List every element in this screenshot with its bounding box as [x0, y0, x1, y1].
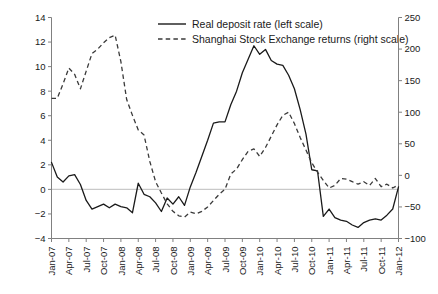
x-axis-tick-label: Apr-10 — [272, 247, 283, 276]
left-axis-tick-label: 8 — [40, 86, 45, 97]
right-axis-tick-label: 150 — [405, 75, 421, 86]
left-axis-tick-label: 4 — [40, 135, 45, 146]
right-axis-tick-label: 0 — [405, 170, 410, 181]
x-axis-tick-label: Jul-07 — [81, 247, 92, 273]
left-axis-tick-label: 2 — [40, 159, 45, 170]
legend-label-real-deposit-rate: Real deposit rate (left scale) — [192, 18, 323, 30]
right-axis-tick-label: 200 — [405, 43, 421, 54]
x-axis-tick-labels: Jan-07Apr-07Jul-07Oct-07Jan-08Apr-08Jul-… — [46, 247, 404, 276]
x-axis-tick-label: Apr-08 — [133, 247, 144, 276]
x-axis-tick-label: Apr-07 — [63, 247, 74, 276]
x-axis-tick-label: Oct-11 — [376, 247, 387, 275]
series-line-real-deposit-rate — [52, 46, 399, 228]
left-axis-tick-label: −2 — [35, 208, 46, 219]
x-axis-tick-label: Jan-08 — [116, 247, 127, 276]
x-axis-tick-label: Apr-11 — [341, 247, 352, 275]
x-axis-tick-label: Jul-11 — [358, 247, 369, 272]
x-axis-tick-label: Jul-08 — [150, 247, 161, 273]
line-chart: Real deposit rate (left scale) Shanghai … — [0, 0, 438, 294]
left-axis-tick-label: 6 — [40, 110, 45, 121]
chart-series-group — [52, 35, 399, 227]
x-axis-tick-label: Oct-10 — [306, 247, 317, 276]
x-axis-tick-label: Oct-07 — [98, 247, 109, 276]
x-axis-tick-label: Jan-12 — [393, 247, 404, 276]
right-axis: −100−50050100150200250 — [399, 12, 426, 244]
legend-label-sse-returns: Shanghai Stock Exchange returns (right s… — [192, 33, 409, 45]
right-axis-tick-label: 250 — [405, 12, 421, 23]
bottom-axis — [52, 239, 399, 243]
x-axis-tick-label: Jan-10 — [254, 247, 265, 276]
left-axis-tick-label: 12 — [35, 36, 46, 47]
chart-legend: Real deposit rate (left scale) Shanghai … — [158, 18, 409, 45]
x-axis-tick-label: Apr-09 — [202, 247, 213, 276]
x-axis-tick-label: Oct-09 — [237, 247, 248, 276]
left-axis-tick-label: 0 — [40, 184, 45, 195]
x-axis-tick-label: Jul-10 — [289, 247, 300, 273]
right-axis-tick-label: 50 — [405, 138, 416, 149]
x-axis-tick-label: Oct-08 — [168, 247, 179, 276]
x-axis-tick-label: Jan-07 — [46, 247, 57, 276]
x-axis-tick-label: Jan-11 — [324, 247, 335, 275]
x-axis-tick-label: Jan-09 — [185, 247, 196, 276]
chart-container: Real deposit rate (left scale) Shanghai … — [0, 0, 438, 294]
left-axis-tick-label: 14 — [35, 12, 46, 23]
right-axis-tick-label: 100 — [405, 107, 421, 118]
left-axis-tick-label: −4 — [35, 233, 46, 244]
left-axis: −4−202468101214 — [35, 12, 52, 244]
x-axis-tick-label: Jul-09 — [220, 247, 231, 273]
right-axis-tick-label: −50 — [405, 201, 421, 212]
right-axis-tick-label: −100 — [405, 233, 426, 244]
left-axis-tick-label: 10 — [35, 61, 46, 72]
